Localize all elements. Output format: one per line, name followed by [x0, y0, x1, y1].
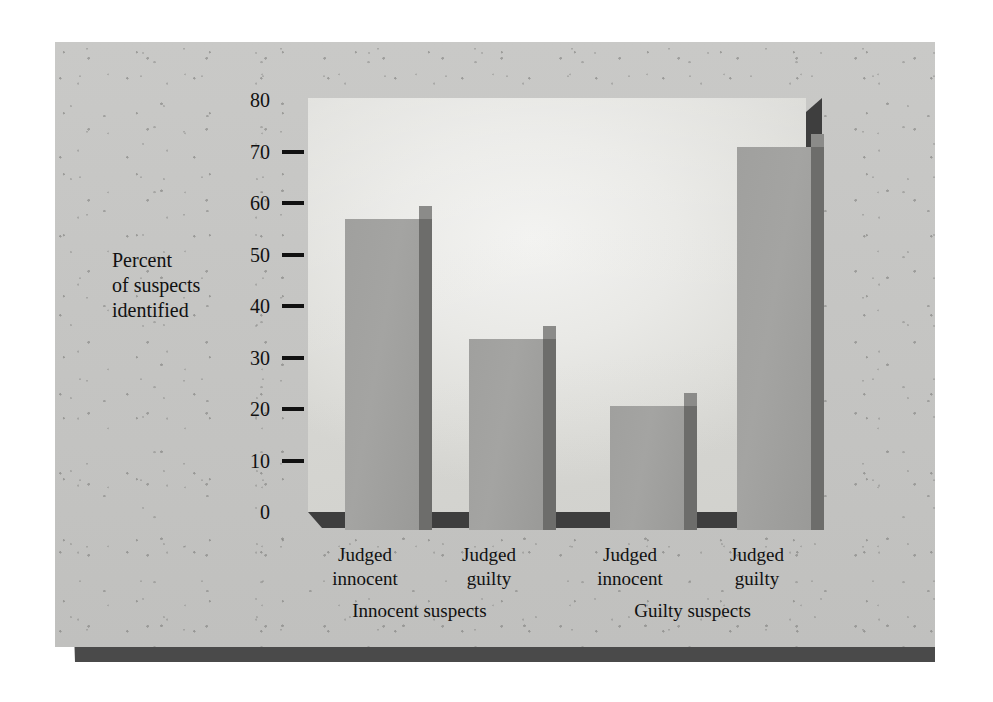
- x-category-label-1: Judged innocent: [300, 543, 430, 591]
- bar-4-top-face: [811, 134, 824, 147]
- y-tick-mark-60: [282, 201, 304, 205]
- y-tick-label-60: 60: [250, 193, 270, 213]
- y-tick-label-20: 20: [250, 399, 270, 419]
- bar-1-top-face: [419, 206, 432, 219]
- x-group-label-1: Innocent suspects: [312, 600, 527, 622]
- bar-1: [345, 219, 419, 530]
- y-axis: 80 70 60 50 40 30 20 10 0: [232, 84, 304, 534]
- bar-4-side-face: [811, 147, 824, 530]
- bar-3-front-face: [610, 406, 684, 530]
- x-category-label-4: Judged guilty: [692, 543, 822, 591]
- bar-2-side-face: [543, 339, 556, 530]
- y-tick-mark-10: [282, 459, 304, 463]
- bar-2-front-face: [469, 339, 543, 530]
- y-tick-label-30: 30: [250, 348, 270, 368]
- y-tick-label-50: 50: [250, 245, 270, 265]
- bar-4-front-face: [737, 147, 811, 530]
- plot-area: [308, 98, 860, 530]
- x-group-label-2: Guilty suspects: [585, 600, 800, 622]
- y-tick-mark-40: [282, 304, 304, 308]
- y-tick-label-40: 40: [250, 296, 270, 316]
- y-tick-label-0: 0: [260, 502, 270, 522]
- bar-2: [469, 339, 543, 530]
- x-category-label-3: Judged innocent: [565, 543, 695, 591]
- y-tick-mark-50: [282, 253, 304, 257]
- chart-figure: Percent of suspects identified 80 70 60 …: [0, 0, 993, 702]
- x-category-label-3-line-1: Judged: [565, 543, 695, 567]
- bar-3-top-face: [684, 393, 697, 406]
- x-category-label-4-line-1: Judged: [692, 543, 822, 567]
- x-category-label-1-line-1: Judged: [300, 543, 430, 567]
- bar-2-top-face: [543, 326, 556, 339]
- x-category-label-1-line-2: innocent: [300, 567, 430, 591]
- y-tick-label-10: 10: [250, 451, 270, 471]
- bar-4: [737, 147, 811, 530]
- x-category-label-2: Judged guilty: [424, 543, 554, 591]
- y-tick-mark-20: [282, 407, 304, 411]
- bar-1-side-face: [419, 219, 432, 530]
- bar-1-front-face: [345, 219, 419, 530]
- y-tick-label-80: 80: [250, 90, 270, 110]
- x-category-label-2-line-1: Judged: [424, 543, 554, 567]
- y-tick-mark-30: [282, 356, 304, 360]
- y-tick-label-70: 70: [250, 142, 270, 162]
- x-category-label-3-line-2: innocent: [565, 567, 695, 591]
- bar-3-side-face: [684, 406, 697, 530]
- x-category-label-2-line-2: guilty: [424, 567, 554, 591]
- y-tick-mark-70: [282, 150, 304, 154]
- bar-3: [610, 406, 684, 530]
- x-category-label-4-line-2: guilty: [692, 567, 822, 591]
